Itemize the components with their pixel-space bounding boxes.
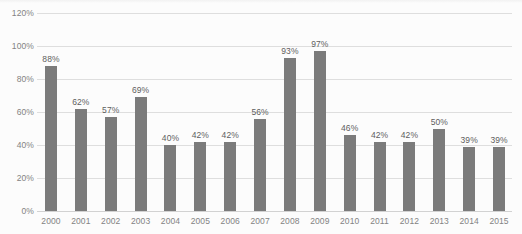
bar[interactable] [493,147,505,211]
y-axis-tick-60: 60% [0,107,34,117]
bar[interactable] [433,129,445,212]
bar-value-label: 97% [300,39,340,49]
bar[interactable] [75,109,87,211]
bar[interactable] [403,142,415,211]
y-axis-tick-20: 20% [0,173,34,183]
bar[interactable] [105,117,117,211]
y-axis-tick-label: 0% [1,206,34,216]
bar-value-label: 88% [31,54,71,64]
y-axis-tick-label: 120% [1,8,34,18]
bar-value-label: 56% [240,107,280,117]
y-axis-tick-80: 80% [0,74,34,84]
bar[interactable] [224,142,236,211]
y-axis-tick-0: 0% [0,206,34,216]
bar-value-label: 42% [210,130,250,140]
bar[interactable] [344,135,356,211]
bar[interactable] [314,51,326,211]
bar[interactable] [194,142,206,211]
bar[interactable] [45,66,57,211]
gridline-80 [37,79,512,80]
bar-value-label: 42% [389,130,429,140]
y-axis-tick-label: 100% [1,41,34,51]
y-axis-tick-120: 120% [0,8,34,18]
bar[interactable] [164,145,176,211]
bar[interactable] [254,119,266,211]
x-axis-tick-label: 2015 [479,216,519,226]
bar[interactable] [374,142,386,211]
bar[interactable] [135,97,147,211]
bar-value-label: 39% [479,135,519,145]
gridline-0 [37,211,512,212]
bar[interactable] [284,58,296,211]
bar-value-label: 57% [91,105,131,115]
y-axis-tick-100: 100% [0,41,34,51]
y-axis-tick-label: 60% [1,107,34,117]
bar-chart: 0%20%40%60%80%100%120% 88%62%57%69%40%42… [0,0,522,234]
top-edge-artifact [0,0,522,3]
bar-value-label: 50% [419,117,459,127]
gridline-120 [37,13,512,14]
y-axis-tick-40: 40% [0,140,34,150]
y-axis-tick-label: 80% [1,74,34,84]
y-axis-tick-label: 20% [1,173,34,183]
y-axis-tick-label: 40% [1,140,34,150]
bar-value-label: 69% [121,85,161,95]
bar[interactable] [463,147,475,211]
